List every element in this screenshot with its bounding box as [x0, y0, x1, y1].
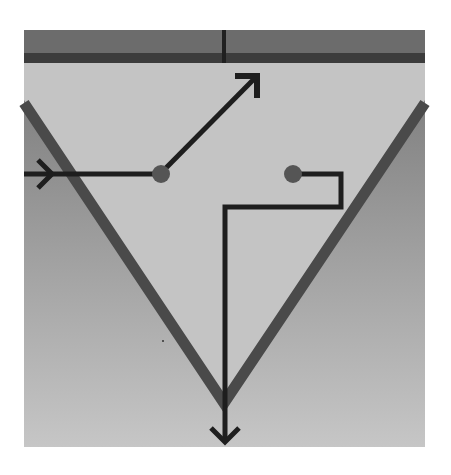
flow-diagram — [0, 0, 451, 475]
left-junction-dot — [152, 165, 170, 183]
right-junction-dot — [284, 165, 302, 183]
speck — [162, 340, 164, 342]
